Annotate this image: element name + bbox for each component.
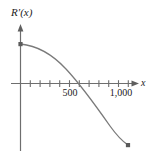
plot-area — [0, 0, 154, 158]
x-axis-arrowhead — [132, 81, 140, 87]
marginal-revenue-figure: R′(x) x 500 1,000 — [0, 0, 154, 158]
x-tick-label-500: 500 — [58, 88, 82, 98]
x-axis-label: x — [141, 78, 145, 88]
x-tick-label-1000: 1,000 — [105, 88, 137, 98]
curve-end-marker — [126, 143, 130, 147]
y-axis-arrowhead — [18, 24, 24, 32]
curve-start-marker — [18, 42, 22, 46]
y-axis-label: R′(x) — [11, 7, 32, 18]
